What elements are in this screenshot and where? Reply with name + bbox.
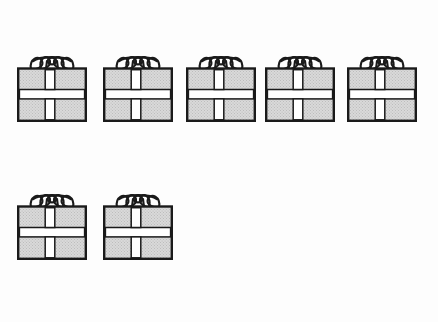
gift-bow — [200, 57, 243, 69]
gift-bow — [117, 57, 160, 69]
illustration-canvas: 5 2 7 — [0, 0, 438, 322]
gift-box — [347, 50, 417, 122]
gift-box-body — [104, 207, 172, 259]
gift-bow — [361, 57, 404, 69]
gift-row-bottom — [0, 188, 438, 268]
gift-box-body — [104, 69, 172, 121]
gift-box-body — [18, 69, 86, 121]
gift-bow — [31, 57, 74, 69]
gift-bow — [31, 195, 74, 207]
gift-box — [186, 50, 256, 122]
gift-box-body — [187, 69, 255, 121]
gift-box-body — [266, 69, 334, 121]
gift-box-body — [18, 207, 86, 259]
gift-box-body — [348, 69, 416, 121]
gift-bow — [279, 57, 322, 69]
gift-box — [103, 50, 173, 122]
gift-box — [17, 188, 87, 260]
gift-box — [17, 50, 87, 122]
gift-box — [103, 188, 173, 260]
gift-row-top — [0, 50, 438, 130]
gift-box — [265, 50, 335, 122]
gift-bow — [117, 195, 160, 207]
